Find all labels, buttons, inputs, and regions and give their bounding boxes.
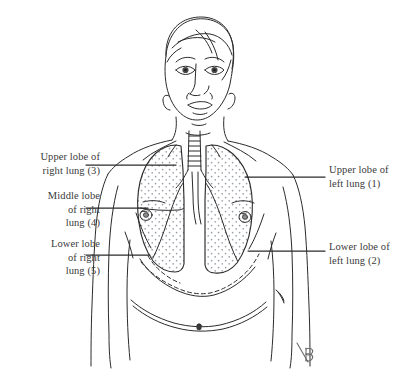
lung-lobes-figure: Upper lobe of right lung (3) Middle lobe… (0, 0, 398, 383)
label-middle-lobe-right-lung: Middle lobe of right lung (4) (2, 189, 100, 230)
label-upper-lobe-right-lung: Upper lobe of right lung (3) (2, 150, 100, 177)
label-upper-lobe-left-lung: Upper lobe of left lung (1) (329, 163, 398, 190)
label-lower-lobe-left-lung: Lower lobe of left lung (2) (329, 240, 398, 267)
face-features (176, 57, 224, 114)
shoulders-and-arms (91, 140, 310, 368)
label-lower-lobe-right-lung: Lower lobe of right lung (5) (2, 237, 100, 278)
left-lung-outline (205, 145, 252, 273)
